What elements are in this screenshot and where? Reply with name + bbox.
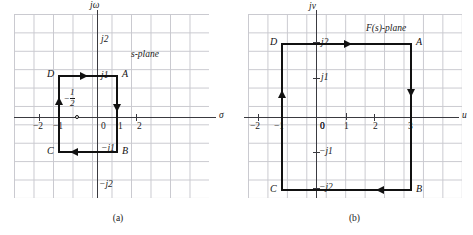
arrow-right-down-b: [407, 89, 415, 97]
axis-label-sigma: σ: [219, 111, 224, 121]
corner-label-a-B: B: [122, 145, 128, 156]
arrow-top-right-a: [80, 72, 88, 80]
panel-s-plane: jω σ s-plane −2 −1 0 1 2 j2 j1 −j1 −j2 A…: [0, 0, 236, 235]
tick-x-1-b: [346, 113, 347, 120]
corner-label-a-A: A: [122, 68, 128, 79]
tick-label-x-1: 1: [118, 122, 123, 132]
arrow-bottom-left-b: [376, 186, 384, 194]
plane-label-F-plane: F(s)-plane: [366, 23, 406, 33]
axis-label-u: u: [462, 111, 467, 121]
axis-label-jv: jv: [309, 2, 316, 12]
arrow-right-down-a: [113, 104, 121, 112]
origin-label-b: 0: [320, 122, 325, 132]
plane-label-s-plane: s-plane: [131, 49, 159, 59]
corner-label-a-C: C: [47, 145, 54, 156]
corner-label-a-D: D: [47, 68, 54, 79]
figure-container: jω σ s-plane −2 −1 0 1 2 j2 j1 −j1 −j2 A…: [0, 0, 473, 235]
pole-label-numerator: 1: [70, 88, 75, 97]
corner-label-b-D: D: [270, 36, 277, 47]
pole-label-sign: −: [64, 94, 69, 103]
tick-x-2: [136, 114, 137, 121]
tick-label-x-2-b: 2: [373, 122, 378, 132]
tick-label-x-0: 0: [101, 122, 106, 132]
arrow-left-up-a: [55, 97, 63, 105]
panel-F-plane: jv u F(s)-plane −2 −1 0 1 2 3 j2 j1 −j1 …: [236, 0, 473, 235]
tick-label-x-2: 2: [137, 122, 142, 132]
tick-x-2-b: [374, 114, 375, 121]
axis-vertical-jomega: [97, 10, 98, 198]
panel-caption-b: (b): [236, 213, 473, 223]
contour-edge-bottom-b: [281, 189, 412, 191]
tick-label-x-1-b: 1: [344, 122, 349, 132]
corner-label-b-C: C: [270, 183, 277, 194]
corner-label-b-B: B: [416, 183, 422, 194]
tick-x-minus2: [39, 114, 40, 121]
corner-label-b-A: A: [416, 36, 422, 47]
arrow-left-up-b: [278, 90, 286, 98]
panel-caption-a: (a): [0, 213, 236, 223]
contour-edge-bottom-a: [58, 151, 118, 153]
tick-x-minus2-b: [258, 114, 259, 121]
tick-label-x-minus2: −2: [33, 122, 43, 132]
tick-label-y-minus-j2: −j2: [99, 180, 113, 190]
axis-horizontal-sigma: [14, 117, 216, 118]
axis-vertical-jv: [316, 10, 317, 198]
contour-edge-left-a: [58, 75, 60, 152]
axis-horizontal-u: [244, 117, 459, 118]
contour-edge-top-a: [58, 75, 118, 77]
contour-edge-right-b: [410, 43, 412, 191]
arrow-top-right-b: [344, 40, 352, 48]
grid-background-a: [14, 14, 209, 198]
arrow-bottom-left-a: [70, 148, 78, 156]
tick-label-x-minus2-b: −2: [250, 122, 260, 132]
tick-label-y-j1-b: j1: [321, 73, 328, 83]
contour-edge-right-a: [116, 75, 118, 152]
tick-y-j1-b: [313, 78, 320, 79]
pole-label-denominator: 2: [70, 99, 75, 108]
tick-label-y-j2: j2: [101, 35, 108, 45]
tick-label-y-minus-j1-b: −j1: [319, 147, 333, 157]
axis-label-jomega: jω: [90, 1, 99, 11]
contour-edge-left-b: [281, 43, 283, 191]
pole-label-minus-half: − 1 2: [64, 88, 75, 108]
